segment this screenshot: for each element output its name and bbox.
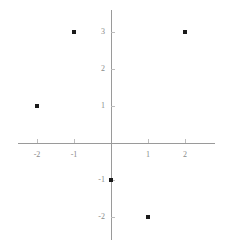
data-point bbox=[109, 178, 113, 182]
y-tick-mark bbox=[111, 32, 115, 33]
y-tick-label: 1 bbox=[89, 102, 105, 110]
y-tick-label: -2 bbox=[89, 213, 105, 221]
y-axis-line bbox=[111, 10, 112, 240]
x-tick-label: -2 bbox=[34, 151, 41, 159]
y-tick-label: -1 bbox=[89, 176, 105, 184]
y-tick-mark bbox=[111, 217, 115, 218]
y-tick-label: 3 bbox=[89, 28, 105, 36]
x-tick-mark bbox=[148, 139, 149, 143]
x-tick-label: -1 bbox=[71, 151, 78, 159]
x-tick-label: 2 bbox=[183, 151, 187, 159]
x-tick-label: 1 bbox=[146, 151, 150, 159]
data-point bbox=[72, 30, 76, 34]
y-tick-label: 2 bbox=[89, 65, 105, 73]
y-tick-mark bbox=[111, 106, 115, 107]
data-point bbox=[183, 30, 187, 34]
x-tick-mark bbox=[37, 139, 38, 143]
data-point bbox=[146, 215, 150, 219]
data-point bbox=[35, 104, 39, 108]
x-tick-mark bbox=[185, 139, 186, 143]
x-axis-line bbox=[18, 143, 215, 144]
y-tick-mark bbox=[111, 69, 115, 70]
scatter-plot: -2-112 321-1-2 bbox=[0, 0, 227, 243]
x-tick-mark bbox=[74, 139, 75, 143]
